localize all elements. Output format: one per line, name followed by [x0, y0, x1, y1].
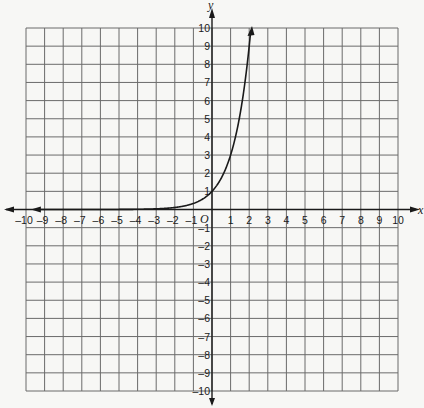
- y-tick-label: 2: [204, 167, 210, 179]
- x-tick-label: 8: [358, 214, 364, 226]
- origin-label: O: [200, 212, 209, 226]
- x-tick-label: –5: [111, 214, 123, 226]
- y-tick-label: –5: [198, 294, 210, 306]
- x-tick-label: –9: [37, 214, 49, 226]
- axes: [6, 12, 416, 404]
- y-tick-label: –6: [198, 312, 210, 324]
- y-tick-label: 4: [204, 131, 210, 143]
- y-tick-label: –2: [198, 240, 210, 252]
- y-tick-label: 3: [204, 149, 210, 161]
- x-tick-label: 4: [283, 214, 289, 226]
- y-tick-label: –7: [198, 331, 210, 343]
- x-tick-label: 7: [339, 214, 345, 226]
- x-tick-label: –10: [15, 214, 33, 226]
- y-tick-label: 8: [204, 58, 210, 70]
- y-tick-label: –3: [198, 258, 210, 270]
- x-tick-label: –6: [93, 214, 105, 226]
- curve-left-arrow-icon: [31, 206, 41, 212]
- y-tick-label: 7: [204, 76, 210, 88]
- y-tick-label: 6: [204, 95, 210, 107]
- x-tick-label: 1: [228, 214, 234, 226]
- y-tick-label: 10: [198, 22, 210, 34]
- x-tick-label: –3: [148, 214, 160, 226]
- x-axis-left-arrow-icon: [4, 207, 14, 213]
- y-tick-label: 9: [204, 40, 210, 52]
- x-tick-label: –1: [186, 214, 198, 226]
- x-tick-label: 3: [265, 214, 271, 226]
- exponential-curve: [41, 31, 251, 209]
- y-tick-label: –10: [192, 385, 210, 397]
- y-tick-label: –4: [198, 276, 210, 288]
- x-tick-label: 2: [246, 214, 252, 226]
- x-tick-label: 6: [321, 214, 327, 226]
- x-tick-label: –4: [130, 214, 142, 226]
- x-tick-label: –7: [74, 214, 86, 226]
- y-tick-label: 5: [204, 113, 210, 125]
- y-tick-label: –9: [198, 367, 210, 379]
- y-tick-label: –8: [198, 349, 210, 361]
- x-axis-label: x: [417, 203, 424, 217]
- x-tick-label: 10: [392, 214, 404, 226]
- y-axis-label: y: [207, 0, 214, 12]
- y-axis-down-arrow-icon: [209, 398, 215, 406]
- x-tick-label: –2: [167, 214, 179, 226]
- x-tick-label: –8: [55, 214, 67, 226]
- x-tick-label: 5: [302, 214, 308, 226]
- coordinate-plane: –10–9–8–7–6–5–4–3–2–112345678910 1098765…: [0, 0, 424, 408]
- x-tick-label: 9: [376, 214, 382, 226]
